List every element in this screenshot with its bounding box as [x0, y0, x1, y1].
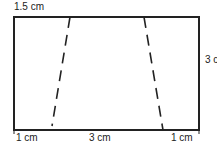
label-bottom-right: 1 cm: [171, 133, 193, 143]
outer-rectangle: [14, 17, 199, 130]
left-dashed-line: [52, 17, 70, 126]
label-bottom-left: 1 cm: [16, 133, 38, 143]
right-dashed-line: [144, 17, 163, 130]
label-bottom-middle: 3 cm: [89, 133, 111, 143]
label-right-height: 3 cm: [205, 55, 217, 65]
label-top-left: 1.5 cm: [14, 2, 44, 12]
